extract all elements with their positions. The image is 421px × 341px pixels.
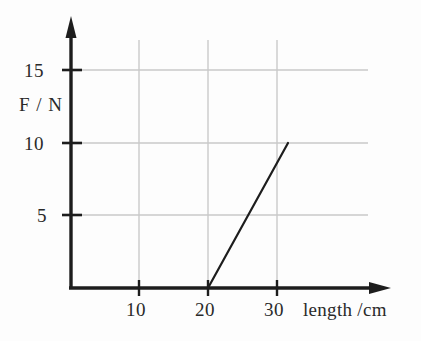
graph-drawing-area	[0, 0, 421, 341]
y-axis	[62, 16, 82, 289]
x-tick-label-10: 10	[126, 300, 146, 319]
y-axis-title: F / N	[19, 95, 63, 114]
y-axis-arrowhead	[66, 16, 77, 38]
x-axis	[69, 280, 391, 296]
x-axis-title: length /cm	[303, 300, 387, 319]
x-axis-arrowhead	[369, 282, 391, 294]
force-extension-graph: 15 10 5 F / N 10 20 30 length /cm	[0, 0, 421, 341]
vertical-gridlines	[139, 40, 277, 288]
x-tick-label-30: 30	[264, 300, 284, 319]
horizontal-gridlines	[71, 70, 368, 215]
y-tick-label-5: 5	[37, 206, 47, 225]
y-tick-label-15: 15	[24, 61, 44, 80]
x-tick-label-20: 20	[195, 300, 215, 319]
y-tick-label-10: 10	[24, 134, 44, 153]
